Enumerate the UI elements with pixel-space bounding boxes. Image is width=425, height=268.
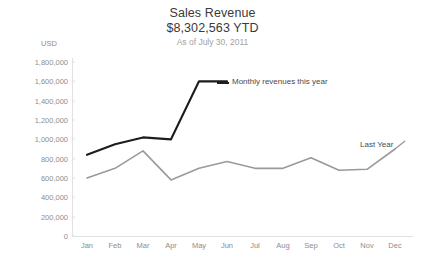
y-axis-tick-mark — [72, 158, 75, 159]
series-line-this-year — [87, 81, 227, 154]
sales-revenue-chart: Sales Revenue $8,302,563 YTD As of July … — [0, 0, 425, 268]
y-axis-tick-mark — [72, 62, 75, 63]
last-year-leader-line — [395, 141, 405, 149]
y-axis-tick-mark — [72, 216, 75, 217]
y-axis-tick-mark — [72, 81, 75, 82]
series-line-last-year — [87, 149, 395, 180]
last-year-series-label: Last Year — [360, 140, 393, 149]
series-layer — [0, 0, 425, 268]
y-axis-tick-mark — [72, 236, 75, 237]
y-axis-tick-mark — [72, 178, 75, 179]
y-axis-tick-mark — [72, 120, 75, 121]
this-year-legend-swatch — [217, 82, 229, 84]
this-year-series-label: Monthly revenues this year — [232, 77, 328, 86]
y-axis-tick-mark — [72, 197, 75, 198]
y-axis-tick-mark — [72, 139, 75, 140]
y-axis-tick-mark — [72, 100, 75, 101]
